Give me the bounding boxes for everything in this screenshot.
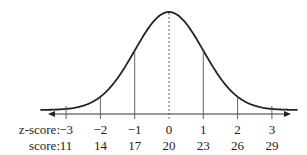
z-score-label: 3 — [269, 122, 276, 138]
z-score-label: −3 — [59, 122, 73, 138]
score-label: 29 — [265, 138, 278, 154]
score-label: 26 — [231, 138, 244, 154]
score-label: 14 — [94, 138, 107, 154]
z-score-row-label: z-score: — [0, 122, 60, 138]
score-label: 11 — [60, 138, 73, 154]
score-label: 17 — [128, 138, 141, 154]
z-score-label: −1 — [128, 122, 142, 138]
right-arrow-icon — [284, 111, 291, 117]
z-score-label: 1 — [200, 122, 207, 138]
score-label: 20 — [163, 138, 176, 154]
score-row-label: score: — [0, 138, 60, 154]
left-arrow-icon — [48, 111, 55, 117]
z-score-label: 2 — [234, 122, 241, 138]
z-score-label: −2 — [93, 122, 107, 138]
z-score-label: 0 — [166, 122, 173, 138]
score-label: 23 — [197, 138, 210, 154]
